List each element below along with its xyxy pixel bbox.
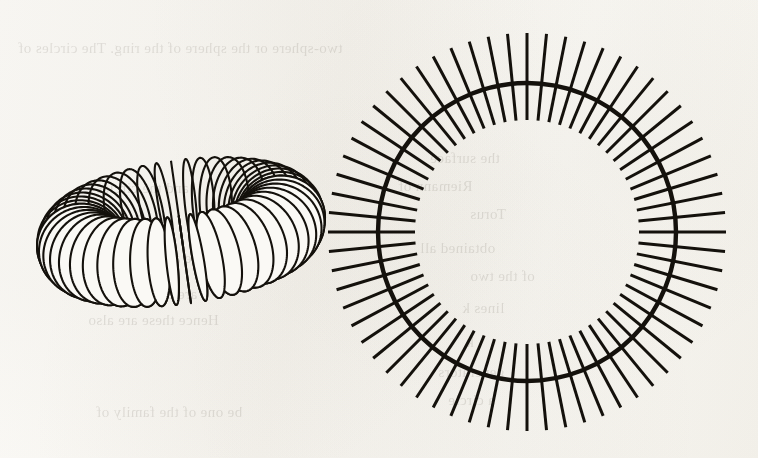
radial-spoke xyxy=(507,343,516,430)
radial-spoke xyxy=(638,212,725,221)
radial-spoke xyxy=(638,243,725,252)
radial-spoke xyxy=(630,275,710,308)
spoke-group xyxy=(328,33,726,431)
radial-spoke xyxy=(538,343,547,430)
main-circle xyxy=(378,83,676,381)
radial-spoke xyxy=(570,335,603,415)
radial-spoke xyxy=(343,156,423,189)
radial-spoke xyxy=(329,243,416,252)
radial-spoke xyxy=(451,48,484,128)
radial-spoke xyxy=(451,335,484,415)
scanned-page: two-sphere or the sphere of the ring. Th… xyxy=(0,0,758,458)
radial-spoke xyxy=(507,34,516,121)
radial-spoke xyxy=(538,34,547,121)
figure-area xyxy=(0,0,758,458)
figure-spoked-circle xyxy=(328,0,758,458)
radial-spoke xyxy=(630,156,710,189)
radial-spoke xyxy=(343,275,423,308)
figure-ribbed-torus xyxy=(0,0,380,458)
radial-spoke xyxy=(329,212,416,221)
torus-occlusion-group xyxy=(37,176,325,307)
radial-spoke xyxy=(570,48,603,128)
